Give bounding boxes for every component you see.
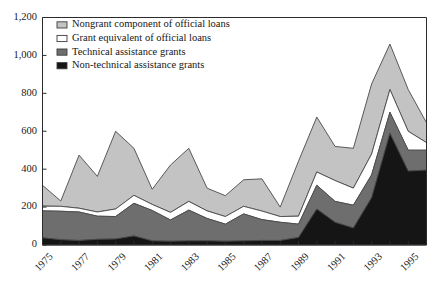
stacked-area-chart: 02004006008001,0001,200 1975197719791981… bbox=[0, 0, 439, 290]
y-tick-label: 800 bbox=[21, 87, 37, 98]
x-tick-label: 1993 bbox=[361, 251, 384, 274]
legend-item-label: Nongrant component of official loans bbox=[72, 18, 230, 29]
legend-swatch-white bbox=[57, 35, 67, 41]
x-axis: 1975197719791981198319851987198919911993… bbox=[32, 241, 426, 273]
legend-item-label: Technical assistance grants bbox=[72, 46, 186, 57]
x-tick-label: 1987 bbox=[252, 251, 275, 274]
chart-container: 02004006008001,0001,200 1975197719791981… bbox=[0, 0, 439, 290]
y-axis: 02004006008001,0001,200 bbox=[13, 11, 46, 250]
legend-swatch-light-gray bbox=[57, 22, 67, 28]
x-tick-label: 1977 bbox=[69, 251, 92, 274]
x-tick-label: 1979 bbox=[105, 251, 128, 274]
legend-item-label: Non-technical assistance grants bbox=[72, 59, 204, 70]
x-tick-label: 1991 bbox=[325, 251, 348, 274]
x-tick-label: 1995 bbox=[398, 251, 421, 274]
x-tick-label: 1981 bbox=[142, 251, 165, 274]
y-tick-label: 400 bbox=[21, 163, 37, 174]
legend-swatch-mid-gray bbox=[57, 49, 67, 55]
legend-swatch-black bbox=[57, 63, 67, 69]
legend-item-label: Grant equivalent of official loans bbox=[72, 32, 211, 43]
x-tick-label: 1989 bbox=[288, 251, 311, 274]
x-tick-label: 1985 bbox=[215, 251, 238, 274]
y-tick-label: 600 bbox=[21, 125, 37, 136]
y-tick-label: 1,000 bbox=[13, 49, 37, 60]
y-tick-label: 200 bbox=[21, 200, 37, 211]
y-tick-label: 0 bbox=[32, 238, 37, 249]
x-tick-label: 1983 bbox=[179, 251, 202, 274]
x-tick-label: 1975 bbox=[32, 251, 55, 274]
y-tick-label: 1,200 bbox=[13, 11, 37, 22]
